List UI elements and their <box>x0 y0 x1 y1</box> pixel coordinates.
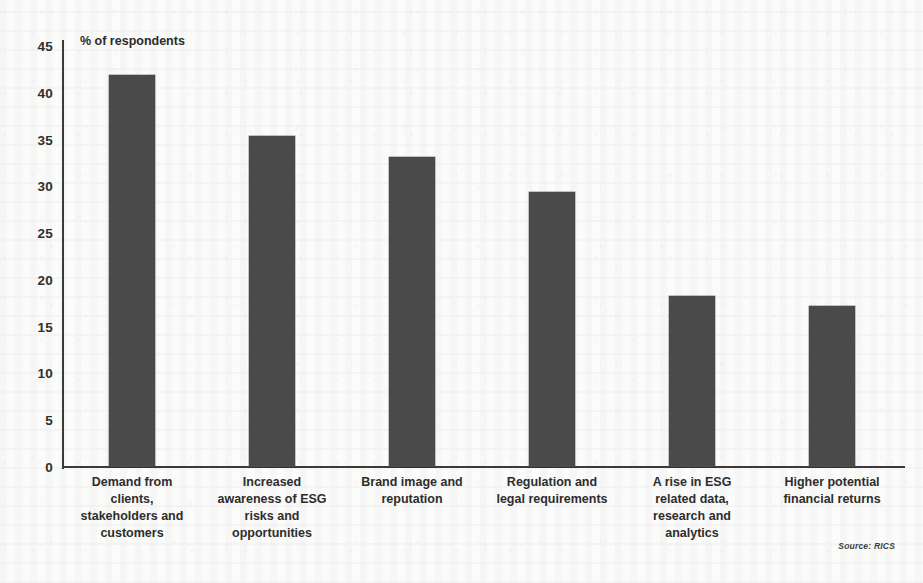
y-axis-tick-label: 20 <box>38 272 62 287</box>
bar-slot <box>482 46 622 467</box>
y-axis-tick-label: 30 <box>38 179 62 194</box>
y-axis-tick-label: 25 <box>38 226 62 241</box>
category-label-line: stakeholders and <box>62 508 202 525</box>
y-axis-tick-label: 45 <box>38 39 62 54</box>
category-label: Demand fromclients,stakeholders andcusto… <box>62 474 202 542</box>
category-label: Brand image andreputation <box>342 474 482 508</box>
bar[interactable] <box>669 296 715 467</box>
bar-slot <box>202 46 342 467</box>
bar-slot <box>622 46 762 467</box>
bar-slot <box>62 46 202 467</box>
plot-area: % of respondents 454035302520151050 <box>62 46 902 467</box>
bar-slot <box>342 46 482 467</box>
source-note: Source: RICS <box>838 541 895 551</box>
category-label-line: Brand image and <box>342 474 482 491</box>
category-label-line: Increased <box>202 474 342 491</box>
category-label-line: awareness of ESG <box>202 491 342 508</box>
category-label-line: opportunities <box>202 525 342 542</box>
category-label: Higher potentialfinancial returns <box>762 474 902 508</box>
bar-chart: % of respondents 454035302520151050 Dema… <box>0 0 923 583</box>
bar[interactable] <box>109 75 155 467</box>
y-axis-tick-label: 35 <box>38 132 62 147</box>
y-axis-tick-label: 0 <box>45 460 62 475</box>
bar[interactable] <box>529 192 575 467</box>
category-label-line: research and <box>622 508 762 525</box>
bar-slot <box>762 46 902 467</box>
y-axis-tick-label: 5 <box>45 413 62 428</box>
bar-series <box>62 46 902 467</box>
category-label-line: customers <box>62 525 202 542</box>
category-label: Regulation andlegal requirements <box>482 474 622 508</box>
y-axis-tick-label: 15 <box>38 319 62 334</box>
y-axis-tick-label: 40 <box>38 85 62 100</box>
category-label-line: Demand from <box>62 474 202 491</box>
category-label-line: Higher potential <box>762 474 902 491</box>
category-label-line: risks and <box>202 508 342 525</box>
category-label-line: Regulation and <box>482 474 622 491</box>
x-axis-category-labels: Demand fromclients,stakeholders andcusto… <box>62 474 902 564</box>
category-label-line: legal requirements <box>482 491 622 508</box>
category-label-line: analytics <box>622 525 762 542</box>
category-label: Increasedawareness of ESGrisks andopport… <box>202 474 342 542</box>
bar[interactable] <box>389 157 435 467</box>
bar[interactable] <box>249 136 295 467</box>
category-label-line: related data, <box>622 491 762 508</box>
y-axis-tick-label: 10 <box>38 366 62 381</box>
category-label-line: A rise in ESG <box>622 474 762 491</box>
category-label-line: clients, <box>62 491 202 508</box>
category-label-line: reputation <box>342 491 482 508</box>
category-label-line: financial returns <box>762 491 902 508</box>
category-label: A rise in ESGrelated data,research andan… <box>622 474 762 542</box>
bar[interactable] <box>809 306 855 467</box>
